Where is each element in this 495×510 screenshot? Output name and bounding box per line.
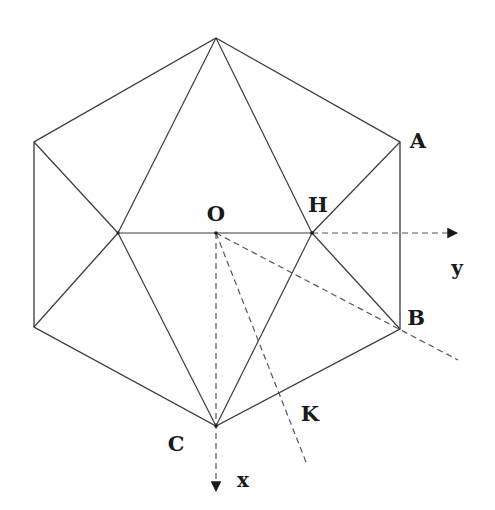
diagram-canvas bbox=[0, 0, 495, 510]
vertex-dots bbox=[117, 231, 314, 428]
label-c: C bbox=[168, 433, 185, 454]
point-o bbox=[214, 231, 218, 235]
line-top-to-h bbox=[216, 38, 312, 233]
label-x-axis: x bbox=[237, 470, 249, 490]
line-m-to-c bbox=[118, 233, 216, 426]
point-h bbox=[310, 231, 314, 235]
line-o-through-b bbox=[216, 233, 458, 360]
hexagon-diagram: O H A B C K y x bbox=[0, 0, 495, 510]
line-h-to-c bbox=[216, 233, 312, 426]
line-o-through-k bbox=[216, 233, 306, 462]
line-lowerleft-to-m bbox=[34, 233, 118, 327]
label-a: A bbox=[410, 130, 426, 151]
line-upperleft-to-m bbox=[34, 142, 118, 233]
label-y-axis: y bbox=[451, 258, 463, 278]
line-a-to-h bbox=[312, 142, 400, 233]
label-o: O bbox=[207, 203, 225, 224]
line-top-to-m bbox=[118, 38, 216, 233]
point-m bbox=[117, 232, 120, 235]
label-k: K bbox=[301, 403, 319, 424]
label-b: B bbox=[407, 307, 425, 328]
line-h-to-b bbox=[312, 233, 400, 329]
point-c bbox=[214, 424, 218, 428]
label-h: H bbox=[308, 194, 328, 215]
